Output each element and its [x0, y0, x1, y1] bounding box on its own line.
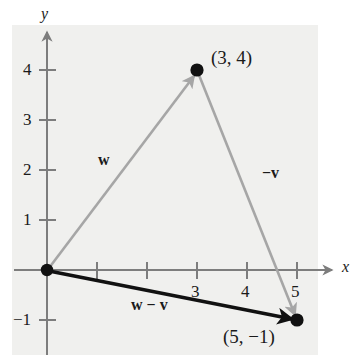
vector-diagram-figure: y x 4 3 2 1 −1 3 4 5 (3, 4) (5, −1) w −v…	[0, 0, 360, 363]
point-3-4-label: (3, 4)	[211, 48, 252, 67]
point-3-4-dot	[190, 63, 203, 76]
x-tick-label-5: 5	[291, 283, 300, 300]
point-5-neg1-dot	[290, 313, 303, 326]
vector-w-minus-v-label: w − v	[131, 297, 168, 313]
x-axis-label: x	[342, 259, 349, 275]
y-tick-label-3: 3	[23, 111, 32, 128]
y-axis-label: y	[41, 6, 48, 22]
x-tick-label-4: 4	[241, 283, 250, 300]
y-tick-label-2: 2	[23, 161, 32, 178]
origin-point-dot	[41, 264, 53, 276]
vector-w-label: w	[98, 152, 110, 168]
point-5-neg1-label: (5, −1)	[223, 327, 275, 346]
vector-neg-v-label: −v	[262, 165, 279, 181]
y-tick-label-neg1: −1	[13, 311, 31, 328]
x-tick-label-3: 3	[191, 283, 200, 300]
y-tick-label-4: 4	[23, 61, 32, 78]
plot-canvas	[0, 0, 360, 363]
y-tick-label-1: 1	[23, 211, 32, 228]
